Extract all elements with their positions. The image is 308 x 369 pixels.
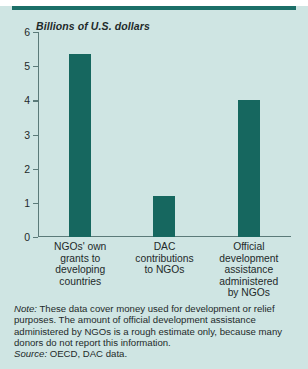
x-category-label-line: development	[203, 253, 295, 265]
x-category-label-line: developing	[34, 264, 126, 276]
bar-slot	[122, 32, 206, 237]
bar	[238, 100, 260, 237]
y-tick-mark	[33, 237, 38, 238]
x-category-label: DACcontributionsto NGOs	[119, 241, 211, 276]
y-tick-label: 5	[8, 61, 30, 71]
x-category-label-line: NGOs' own	[34, 241, 126, 253]
bar-series	[38, 32, 291, 237]
x-category-label-line: administered	[203, 276, 295, 288]
x-category-label-line: contributions	[119, 253, 211, 265]
y-axis-title: Billions of U.S. dollars	[36, 20, 150, 32]
y-tick-label: 1	[8, 198, 30, 208]
note-label: Note:	[14, 303, 37, 314]
x-category-label-line: countries	[34, 276, 126, 288]
footnote-note: Note: These data cover money used for de…	[14, 303, 299, 348]
x-category-label-line: Official	[203, 241, 295, 253]
x-category-label-line: grants to	[34, 253, 126, 265]
x-category-label: Officialdevelopmentassistanceadministere…	[203, 241, 295, 299]
x-category-label-line: to NGOs	[119, 264, 211, 276]
source-text: OECD, DAC data.	[47, 348, 127, 359]
y-tick-label: 4	[8, 95, 30, 105]
note-text: These data cover money used for developm…	[14, 303, 282, 348]
x-category-label-line: DAC	[119, 241, 211, 253]
x-category-label-line: by NGOs	[203, 287, 295, 299]
bar	[153, 196, 175, 237]
bar	[69, 54, 91, 237]
x-category-label: NGOs' owngrants todevelopingcountries	[34, 241, 126, 287]
y-tick-label: 2	[8, 164, 30, 174]
source-label: Source:	[14, 348, 47, 359]
footnote-block: Note: These data cover money used for de…	[14, 303, 299, 359]
y-tick-label: 0	[8, 232, 30, 242]
bar-slot	[207, 32, 291, 237]
chart-figure: Billions of U.S. dollars 6543210 NGOs' o…	[0, 0, 308, 369]
x-category-label-line: assistance	[203, 264, 295, 276]
bar-slot	[38, 32, 122, 237]
y-tick-label: 6	[8, 27, 30, 37]
y-tick-label: 3	[8, 130, 30, 140]
footnote-source: Source: OECD, DAC data.	[14, 348, 299, 359]
